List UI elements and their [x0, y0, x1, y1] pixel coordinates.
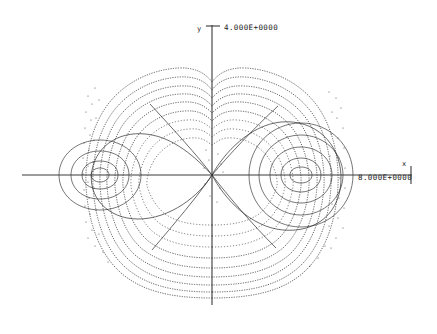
y-axis-name-label: y	[197, 25, 201, 33]
y-axis-value-label: 4.000E+0000	[224, 23, 278, 32]
stochastic-x-point-vicinity	[204, 150, 224, 203]
stochastic-layer-group	[83, 88, 346, 267]
axes-group	[22, 25, 412, 305]
phase-space-plot: y 4.000E+0000 x 8.000E+0000	[0, 0, 437, 334]
x-axis-value-label: 8.000E+0000	[358, 173, 412, 182]
x-axis-name-label: x	[402, 160, 406, 168]
separatrix-left-lobe	[91, 134, 212, 219]
separatrix-branch-upper	[150, 104, 278, 175]
plot-canvas: y 4.000E+0000 x 8.000E+0000	[0, 0, 437, 334]
separatrix-branch-lower	[152, 175, 276, 250]
